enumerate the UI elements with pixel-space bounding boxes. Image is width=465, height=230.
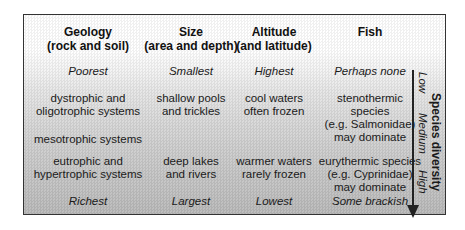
text-line: shallow pools: [142, 92, 240, 105]
header-geology: Geology (rock and soil): [24, 25, 152, 53]
geology-richest: Richest: [24, 195, 152, 208]
text-line: rarely frozen: [228, 168, 320, 181]
text-line: and rivers: [142, 168, 240, 181]
text-line: deep lakes: [142, 155, 240, 168]
size-smallest: Smallest: [142, 65, 240, 78]
header-geology-subtitle: (rock and soil): [24, 39, 152, 53]
header-size-subtitle: (area and depth): [142, 39, 240, 53]
size-largest: Largest: [142, 195, 240, 208]
header-size-title: Size: [142, 25, 240, 39]
text-line: eutrophic and: [24, 155, 152, 168]
geology-mid: mesotrophic systems: [24, 133, 152, 146]
header-altitude: Altitude (and latitude): [228, 25, 320, 53]
header-size: Size (area and depth): [142, 25, 240, 53]
geology-high: eutrophic and hypertrophic systems: [24, 155, 152, 181]
text-line: oligotrophic systems: [24, 105, 152, 118]
diversity-axis-title: Species diversity: [429, 93, 443, 191]
altitude-highest: Highest: [228, 65, 320, 78]
header-altitude-subtitle: (and latitude): [228, 39, 320, 53]
header-altitude-title: Altitude: [228, 25, 320, 39]
diversity-medium-label: Medium: [417, 113, 429, 154]
altitude-low: cool waters often frozen: [228, 92, 320, 118]
size-low: shallow pools and trickles: [142, 92, 240, 118]
size-high: deep lakes and rivers: [142, 155, 240, 181]
text-line: dystrophic and: [24, 92, 152, 105]
geology-low: dystrophic and oligotrophic systems: [24, 92, 152, 118]
text-line: cool waters: [228, 92, 320, 105]
altitude-lowest: Lowest: [228, 195, 320, 208]
diversity-low-label: Low: [417, 72, 429, 93]
text-line: often frozen: [228, 105, 320, 118]
text-line: warmer waters: [228, 155, 320, 168]
diversity-high-label: High: [417, 170, 429, 194]
diversity-arrow-head-icon: [407, 205, 419, 218]
geology-poorest: Poorest: [24, 65, 152, 78]
diagram-frame: Geology (rock and soil) Size (area and d…: [23, 14, 446, 215]
header-geology-title: Geology: [24, 25, 152, 39]
altitude-high: warmer waters rarely frozen: [228, 155, 320, 181]
header-fish-title: Fish: [310, 25, 430, 39]
text-line: hypertrophic systems: [24, 168, 152, 181]
diversity-arrow-shaft: [412, 70, 414, 210]
text-line: and trickles: [142, 105, 240, 118]
header-fish: Fish: [310, 25, 430, 39]
